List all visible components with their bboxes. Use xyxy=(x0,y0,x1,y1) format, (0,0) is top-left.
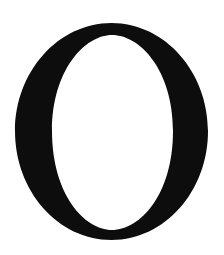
letter-o-shape xyxy=(0,0,224,255)
